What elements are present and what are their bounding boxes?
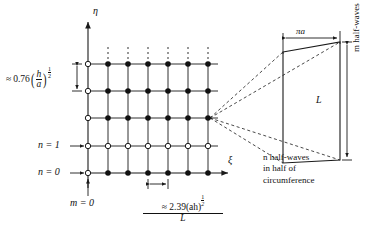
panel-height-label: L: [316, 95, 322, 105]
right-paren: ): [43, 73, 47, 87]
xi-axis-label: ξ: [228, 155, 232, 165]
xi-exponent-denominator: 2: [201, 201, 204, 207]
m-equals-zero-label: m = 0: [70, 198, 94, 208]
n-half-waves-caption: n half-waves in half of circumference: [263, 152, 314, 186]
approx-sign: ≈: [6, 74, 11, 84]
diagram-svg: [0, 0, 373, 227]
xi-spacing-dimension: [148, 179, 168, 189]
figure-canvas: η ξ ≈0.76(ha)12 n = 1 n = 0 m = 0 ≈ 2.39…: [0, 0, 373, 227]
caption-line-3: circumference: [263, 175, 314, 186]
caption-line-1: n half-waves: [263, 152, 314, 163]
left-paren: (: [31, 73, 35, 87]
eta-spacing-dimension: [72, 64, 82, 91]
one-half-exponent: 12: [48, 66, 51, 79]
exponent-denominator: 2: [48, 73, 51, 79]
panel-width-label: πa: [296, 27, 305, 36]
xi-spacing-label: ≈ 2.39(ah)12 L: [143, 194, 223, 223]
grid-row-lines: [88, 64, 218, 146]
grid-column-lines: [108, 64, 208, 173]
fraction-denominator: a: [36, 80, 43, 90]
h-over-a-fraction: ha: [36, 70, 43, 91]
callout-arrows: [70, 146, 88, 196]
n-equals-one-label: n = 1: [38, 140, 60, 150]
xi-spacing-exponent: 12: [201, 194, 204, 207]
xi-exponent-numerator: 1: [201, 194, 204, 201]
grid-dashed-stubs: [108, 44, 208, 64]
height-dimension: [342, 42, 352, 160]
eta-coefficient: 0.76: [13, 74, 30, 84]
eta-axis-label: η: [93, 6, 98, 16]
n-equals-zero-label: n = 0: [38, 167, 60, 177]
xi-spacing-numerator-text: ≈ 2.39(ah): [162, 202, 202, 212]
m-half-waves-label: m half-waves: [352, 3, 361, 52]
exponent-numerator: 1: [48, 66, 51, 73]
shell-element-outline: [283, 42, 340, 163]
filled-nodes: [105, 61, 211, 176]
xi-spacing-numerator: ≈ 2.39(ah)12: [143, 194, 223, 214]
caption-line-2: in half of: [263, 163, 314, 174]
xi-spacing-denominator: L: [143, 214, 223, 224]
eta-spacing-label: ≈0.76(ha)12: [6, 66, 51, 90]
